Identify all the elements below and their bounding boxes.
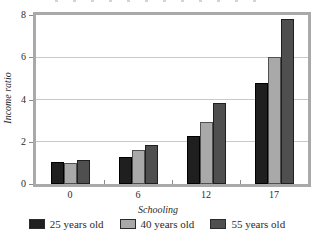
bar (77, 160, 90, 184)
plot-area (33, 12, 311, 187)
y-tick-label: 6 (4, 51, 26, 63)
legend: 25 years old40 years old55 years old (0, 218, 314, 230)
x-tick-mark (104, 180, 105, 184)
income-ratio-bar-chart: Income ratio 02468 061217 Schooling 25 y… (0, 0, 314, 239)
x-axis-title: Schooling (33, 204, 283, 215)
bar (51, 162, 64, 184)
bar (64, 163, 77, 184)
bar (200, 122, 213, 184)
y-tick-label: 8 (4, 9, 26, 21)
y-tick-label: 4 (4, 94, 26, 106)
bar (281, 19, 294, 184)
bar (132, 150, 145, 184)
x-tick-mark (240, 180, 241, 184)
legend-label: 25 years old (50, 218, 104, 230)
bar (255, 83, 268, 184)
bar (145, 145, 158, 184)
x-tick-mark (172, 180, 173, 184)
bar (213, 103, 226, 184)
legend-label: 40 years old (141, 218, 195, 230)
legend-item: 40 years old (120, 218, 195, 230)
x-tick-label: 6 (123, 189, 153, 200)
bar (119, 157, 132, 184)
legend-swatch (210, 219, 226, 229)
legend-label: 55 years old (231, 218, 285, 230)
x-tick-label: 12 (191, 189, 221, 200)
cropped-title-remnant (55, 0, 260, 2)
legend-swatch (120, 219, 136, 229)
y-tick-label: 2 (4, 136, 26, 148)
x-tick-label: 17 (259, 189, 289, 200)
legend-swatch (29, 219, 45, 229)
y-tick-label: 0 (4, 178, 26, 190)
legend-item: 25 years old (29, 218, 104, 230)
bar (187, 136, 200, 184)
x-tick-label: 0 (55, 189, 85, 200)
bar (268, 57, 281, 184)
legend-item: 55 years old (210, 218, 285, 230)
